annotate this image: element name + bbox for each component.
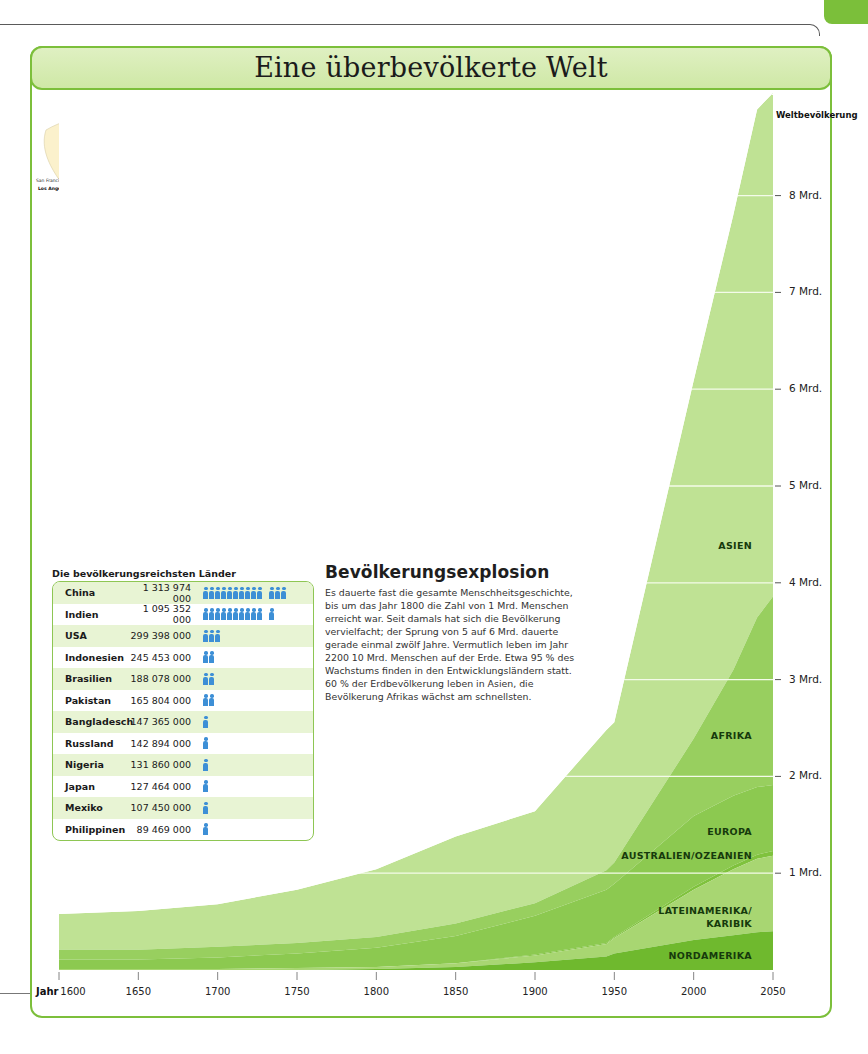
country-name: Brasilien: [53, 673, 127, 684]
region-label-asien: ASIEN: [660, 539, 752, 552]
country-population: 1 313 974 000: [127, 582, 203, 604]
person-icon: [209, 630, 215, 642]
y-tick-label: 4 Mrd.: [789, 576, 822, 588]
population-pictogram: [203, 823, 209, 835]
person-icon: [203, 759, 209, 771]
person-icon: [269, 608, 275, 620]
x-tick-label: 1600: [60, 986, 85, 997]
person-icon: [215, 587, 221, 599]
x-axis-title: Jahr: [36, 986, 59, 997]
table-row: USA299 398 000: [53, 625, 313, 647]
population-pictogram: [203, 587, 287, 599]
country-name: China: [53, 587, 127, 598]
region-label-europa: EUROPA: [660, 825, 752, 838]
person-icon: [203, 737, 209, 749]
person-icon: [251, 587, 257, 599]
table-row: Mexiko107 450 000: [53, 797, 313, 819]
person-icon: [203, 694, 209, 706]
person-icon: [203, 823, 209, 835]
population-pictogram: [203, 716, 209, 728]
country-name: Indien: [53, 609, 127, 620]
table-row: Indonesien245 453 000: [53, 647, 313, 669]
x-tick-label: 1700: [205, 986, 230, 997]
person-icon: [227, 608, 233, 620]
person-icon: [215, 630, 221, 642]
person-icon: [215, 608, 221, 620]
country-population: 245 453 000: [127, 652, 203, 663]
country-population: 1 095 352 000: [127, 603, 203, 625]
country-name: Nigeria: [53, 759, 127, 770]
person-icon: [203, 630, 209, 642]
table-row: China1 313 974 000: [53, 582, 313, 604]
person-icon: [203, 587, 209, 599]
population-area-chart: [0, 0, 868, 1054]
population-pictogram: [203, 608, 275, 620]
person-icon: [239, 608, 245, 620]
population-pictogram: [203, 737, 209, 749]
y-tick-label: 5 Mrd.: [789, 479, 822, 491]
left-margin-rule: [0, 993, 30, 994]
person-icon: [203, 716, 209, 728]
x-tick-label: 1950: [602, 986, 627, 997]
country-name: Indonesien: [53, 652, 127, 663]
person-icon: [275, 587, 281, 599]
region-label-australien: AUSTRALIEN/OZEANIEN: [600, 849, 752, 862]
person-icon: [209, 608, 215, 620]
population-pictogram: [203, 759, 209, 771]
x-tick-label: 1800: [364, 986, 389, 997]
y-tick-label: 1 Mrd.: [789, 866, 822, 878]
table-row: Indien1 095 352 000: [53, 604, 313, 626]
country-population: 165 804 000: [127, 695, 203, 706]
table-row: Pakistan165 804 000: [53, 690, 313, 712]
person-icon: [245, 587, 251, 599]
y-tick-label: 7 Mrd.: [789, 285, 822, 297]
population-pictogram: [203, 651, 215, 663]
person-icon: [281, 587, 287, 599]
countries-table: China1 313 974 000Indien1 095 352 000USA…: [52, 581, 314, 841]
person-icon: [233, 587, 239, 599]
person-icon: [257, 587, 263, 599]
y-tick-label: 3 Mrd.: [789, 673, 822, 685]
y-tick-label: 8 Mrd.: [789, 189, 822, 201]
country-population: 188 078 000: [127, 673, 203, 684]
population-pictogram: [203, 694, 215, 706]
population-pictogram: [203, 673, 215, 685]
country-population: 107 450 000: [127, 802, 203, 813]
person-icon: [209, 694, 215, 706]
person-icon: [203, 802, 209, 814]
country-population: 131 860 000: [127, 759, 203, 770]
table-row: Bangladesch147 365 000: [53, 711, 313, 733]
person-icon: [209, 673, 215, 685]
region-label-nordamerika: NORDAMERIKA: [640, 949, 752, 962]
person-icon: [203, 780, 209, 792]
table-row: Russland142 894 000: [53, 733, 313, 755]
person-icon: [203, 608, 209, 620]
person-icon: [221, 587, 227, 599]
article-population-explosion: Bevölkerungsexplosion Es dauerte fast di…: [325, 562, 585, 703]
country-name: Bangladesch: [53, 716, 127, 727]
person-icon: [203, 673, 209, 685]
x-tick-label: 2000: [681, 986, 706, 997]
country-population: 89 469 000: [127, 824, 203, 835]
population-pictogram: [203, 802, 209, 814]
person-icon: [245, 608, 251, 620]
person-icon: [251, 608, 257, 620]
person-icon: [209, 587, 215, 599]
person-icon: [209, 651, 215, 663]
x-tick-label: 2050: [760, 986, 785, 997]
y-tick-label: 2 Mrd.: [789, 769, 822, 781]
x-tick-label: 1750: [284, 986, 309, 997]
person-icon: [221, 608, 227, 620]
person-icon: [227, 587, 233, 599]
table-row: Japan127 464 000: [53, 776, 313, 798]
population-pictogram: [203, 630, 221, 642]
country-population: 299 398 000: [127, 630, 203, 641]
region-label-afrika: AFRIKA: [660, 729, 752, 742]
person-icon: [233, 608, 239, 620]
article-body: Es dauerte fast die gesamte Menschheitsg…: [325, 586, 585, 703]
country-population: 127 464 000: [127, 781, 203, 792]
y-tick-label: 6 Mrd.: [789, 382, 822, 394]
top-countries-panel: Die bevölkerungsreichsten Länder China1 …: [52, 568, 314, 841]
table-row: Nigeria131 860 000: [53, 754, 313, 776]
x-tick-label: 1650: [126, 986, 151, 997]
